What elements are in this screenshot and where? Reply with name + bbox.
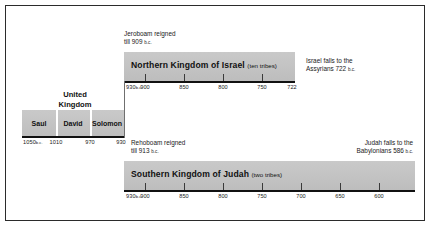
israel-fall-note-year: Assyrians 722	[306, 65, 346, 72]
israel-fall-note-line2: Assyrians 722 b.c.	[306, 65, 355, 74]
uk-axis-label-1050: 1050b.c.	[23, 139, 43, 145]
judah-tick-850	[184, 183, 185, 190]
judah-axis-label-600: 600	[374, 193, 384, 199]
rehoboam-note-year: till 913	[131, 147, 149, 154]
judah-bar-subtitle: (two tribes)	[252, 171, 283, 178]
israel-fall-note-line1: Israel falls to the	[306, 57, 355, 65]
judah-axis-label-800: 800	[218, 193, 228, 199]
judah-fall-note: Judah falls to the Babylonians 586 b.c.	[357, 139, 413, 156]
reign-label-david: David	[63, 120, 82, 127]
israel-axis-label-800: 800	[218, 84, 228, 90]
jeroboam-note: Jeroboam reigned till 909 b.c.	[124, 30, 176, 47]
uk-axis-label-970: 970	[85, 139, 95, 145]
reign-label-solomon: Solomon	[92, 120, 122, 127]
judah-axis-label-650: 650	[335, 193, 345, 199]
israel-fall-note: Israel falls to the Assyrians 722 b.c.	[306, 57, 355, 74]
judah-tick-900	[145, 183, 146, 190]
united-kingdom-heading-line1: United	[36, 90, 114, 100]
israel-bar-subtitle: (ten tribes)	[247, 62, 277, 69]
israel-axis-line	[124, 81, 295, 83]
israel-tick-750	[262, 74, 263, 81]
rehoboam-note: Rehoboam reigned till 913 b.c.	[131, 139, 185, 156]
uk-axis-label-1010: 1010	[50, 139, 63, 145]
jeroboam-note-era: b.c.	[144, 40, 151, 45]
judah-tick-700	[301, 183, 302, 190]
rehoboam-note-era: b.c.	[151, 149, 158, 154]
united-kingdom-heading-line2: Kingdom	[36, 100, 114, 110]
judah-axis-line	[124, 190, 415, 192]
judah-axis-label-700: 700	[296, 193, 306, 199]
judah-fall-note-line1: Judah falls to the	[357, 139, 413, 147]
judah-axis-label-900: 900	[140, 193, 150, 199]
judah-tick-750	[262, 183, 263, 190]
judah-bar-title-text: Southern Kingdom of Judah	[131, 169, 249, 179]
rehoboam-note-line2: till 913 b.c.	[131, 147, 185, 156]
united-kingdom-axis-line	[22, 136, 124, 138]
judah-tick-650	[340, 183, 341, 190]
reign-divider-saul-david	[56, 110, 58, 137]
connector-930-line	[124, 81, 125, 138]
judah-axis-label-750: 750	[257, 193, 267, 199]
israel-fall-note-era: b.c.	[348, 67, 355, 72]
israel-bar-title: Northern Kingdom of Israel (ten tribes)	[131, 60, 277, 70]
jeroboam-note-line1: Jeroboam reigned	[124, 30, 176, 38]
judah-fall-note-era: b.c.	[406, 149, 413, 154]
rehoboam-note-line1: Rehoboam reigned	[131, 139, 185, 147]
timeline-figure: Jeroboam reigned till 909 b.c. Northern …	[0, 0, 431, 234]
judah-bar-title: Southern Kingdom of Judah (two tribes)	[131, 169, 282, 179]
reign-label-saul: Saul	[32, 120, 47, 127]
judah-tick-600	[379, 183, 380, 190]
israel-axis-label-750: 750	[257, 84, 267, 90]
judah-fall-note-year: Babylonians 586	[357, 147, 404, 154]
jeroboam-note-year: till 909	[124, 38, 142, 45]
israel-bar-title-text: Northern Kingdom of Israel	[131, 60, 245, 70]
jeroboam-note-line2: till 909 b.c.	[124, 38, 176, 47]
uk-axis-label-930: 930	[116, 139, 126, 145]
israel-axis-label-722: 722	[287, 84, 297, 90]
united-kingdom-heading: United Kingdom	[36, 90, 114, 109]
israel-tick-800	[223, 74, 224, 81]
israel-axis-label-900: 900	[140, 84, 150, 90]
israel-tick-900	[145, 74, 146, 81]
israel-tick-850	[184, 74, 185, 81]
judah-fall-note-line2: Babylonians 586 b.c.	[357, 147, 413, 156]
israel-axis-label-850: 850	[179, 84, 189, 90]
judah-axis-label-850: 850	[179, 193, 189, 199]
judah-tick-800	[223, 183, 224, 190]
